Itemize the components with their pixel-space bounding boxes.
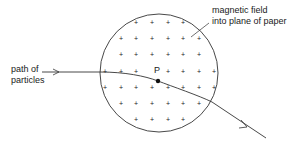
field-cross-icon: + xyxy=(181,100,185,107)
field-cross-icon: + xyxy=(166,68,170,75)
field-cross-icon: + xyxy=(134,19,138,26)
field-cross-icon: + xyxy=(166,116,170,123)
field-cross-icon: + xyxy=(103,68,107,75)
path-label-line1: path of xyxy=(11,64,45,75)
field-cross-icon: + xyxy=(150,84,154,91)
field-cross-icon: + xyxy=(166,19,170,26)
field-cross-icon: + xyxy=(166,51,170,58)
field-label-line1: magnetic field xyxy=(212,5,287,16)
path-label: path of particles xyxy=(11,64,45,86)
field-cross-icon: + xyxy=(134,51,138,58)
field-cross-icon: + xyxy=(103,84,107,91)
field-cross-icon: + xyxy=(119,51,123,58)
field-cross-icon: + xyxy=(150,100,154,107)
field-cross-icon: + xyxy=(181,51,185,58)
field-cross-icon: + xyxy=(197,68,201,75)
field-cross-icon: + xyxy=(181,19,185,26)
field-cross-icon: + xyxy=(119,100,123,107)
field-cross-icon: + xyxy=(150,35,154,42)
point-p-dot xyxy=(156,79,160,83)
field-cross-icon: + xyxy=(197,100,201,107)
field-cross-icon: + xyxy=(166,35,170,42)
field-cross-icon: + xyxy=(150,51,154,58)
field-cross-icon: + xyxy=(166,100,170,107)
field-label-line2: into plane of paper xyxy=(212,16,287,27)
field-cross-icon: + xyxy=(197,35,201,42)
field-cross-icon: + xyxy=(150,116,154,123)
field-cross-icon: + xyxy=(181,35,185,42)
field-cross-icon: + xyxy=(119,84,123,91)
field-cross-icon: + xyxy=(150,19,154,26)
field-cross-icon: + xyxy=(134,116,138,123)
field-cross-icon: + xyxy=(212,84,216,91)
point-p-label: P xyxy=(154,65,160,76)
field-cross-icon: + xyxy=(134,84,138,91)
field-cross-icon: + xyxy=(134,100,138,107)
field-label: magnetic field into plane of paper xyxy=(212,5,287,27)
field-cross-icon: + xyxy=(197,84,201,91)
diagram-canvas: ++++++++++++++++++++++++++++++++++++++++… xyxy=(0,0,288,148)
field-cross-icon: + xyxy=(119,35,123,42)
field-cross-icon: + xyxy=(181,68,185,75)
path-label-line2: particles xyxy=(11,75,45,86)
field-cross-icon: + xyxy=(181,116,185,123)
field-cross-icon: + xyxy=(197,51,201,58)
field-cross-icon: + xyxy=(134,35,138,42)
field-cross-icon: + xyxy=(212,68,216,75)
field-cross-icon: + xyxy=(134,68,138,75)
